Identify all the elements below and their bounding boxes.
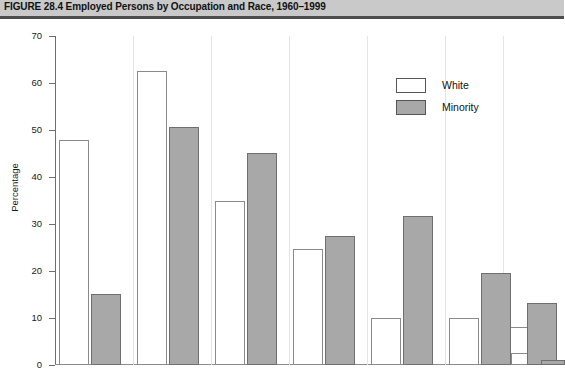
bar-white-6	[293, 249, 323, 365]
bar-white-8	[371, 318, 401, 365]
figure-header-band: FIGURE 28.4 Employed Persons by Occupati…	[0, 0, 564, 19]
bar-minority-13	[527, 303, 557, 366]
bars-layer	[55, 36, 564, 365]
figure-title: FIGURE 28.4 Employed Persons by Occupati…	[4, 1, 326, 12]
legend-item-white: White	[396, 74, 479, 96]
y-axis-tick-label: 10	[0, 312, 42, 323]
y-axis-tick-label: 70	[0, 30, 42, 41]
bar-minority-3	[169, 127, 199, 365]
y-axis-title: Percentage	[9, 128, 20, 248]
chart-legend: White Minority	[396, 74, 479, 118]
y-axis-tick-mark	[49, 365, 55, 366]
y-axis-tick-label: 30	[0, 218, 42, 229]
group-separator	[211, 36, 212, 365]
group-separator	[367, 36, 368, 365]
y-axis-tick-label: 50	[0, 124, 42, 135]
bar-white-2	[137, 71, 167, 365]
bar-white-4	[215, 201, 245, 365]
chart-plot-area: Percentage 010203040506070 White Minorit…	[0, 22, 564, 374]
legend-swatch-minority-icon	[396, 100, 426, 115]
legend-label-white: White	[442, 79, 469, 91]
legend-item-minority: Minority	[396, 96, 479, 118]
legend-label-minority: Minority	[442, 101, 479, 113]
y-axis-tick-label: 20	[0, 265, 42, 276]
bar-minority-9	[403, 216, 433, 365]
y-axis-tick-label: 0	[0, 359, 42, 370]
group-separator	[289, 36, 290, 365]
y-axis-tick-label: 60	[0, 77, 42, 88]
bar-minority-1	[91, 294, 121, 365]
bar-white-0	[59, 140, 89, 365]
bar-minority-5	[247, 153, 277, 365]
group-separator	[133, 36, 134, 365]
bar-minority-11	[481, 273, 511, 365]
bar-minority-15	[541, 360, 565, 365]
bar-white-10	[449, 318, 479, 365]
bar-minority-7	[325, 236, 355, 365]
legend-swatch-white-icon	[396, 78, 426, 93]
y-axis-tick-label: 40	[0, 171, 42, 182]
